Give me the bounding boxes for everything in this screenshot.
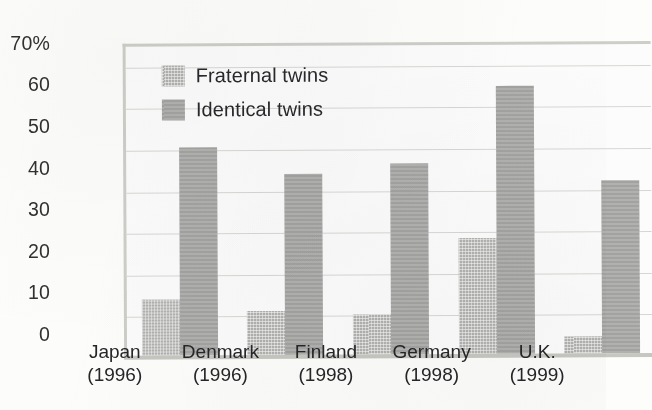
x-axis-label-country: Denmark — [182, 341, 259, 362]
x-axis: Japan(1996)Denmark(1996)Finland(1998)Ger… — [62, 340, 590, 406]
y-tick-label-20: 20 — [28, 239, 50, 262]
x-axis-label-country: Japan — [89, 341, 141, 362]
y-tick-label-40: 40 — [28, 156, 50, 179]
bar-uk-identical — [601, 181, 640, 354]
y-tick-label-0: 0 — [39, 323, 50, 346]
bar-denmark-identical — [285, 174, 324, 355]
bar-finland-identical — [390, 163, 429, 355]
x-axis-label-country: Germany — [393, 341, 471, 362]
y-tick-label-30: 30 — [28, 198, 50, 221]
legend-label-identical: Identical twins — [196, 97, 323, 121]
bar-japan-identical — [179, 147, 218, 355]
y-tick-label-60: 60 — [28, 73, 50, 96]
x-axis-label-country: U.K. — [519, 341, 556, 362]
x-axis-label-year: (1998) — [379, 363, 485, 386]
bar-germany-fraternal — [458, 237, 497, 354]
bar-germany-identical — [495, 85, 534, 353]
x-axis-label-germany: Germany(1998) — [379, 340, 485, 386]
x-axis-label-year: (1996) — [168, 363, 274, 386]
y-tick-label-50: 50 — [28, 115, 50, 138]
x-axis-label-denmark: Denmark(1996) — [168, 340, 274, 386]
legend-item-fraternal: Fraternal twins — [162, 58, 329, 93]
x-axis-label-year: (1999) — [484, 363, 590, 386]
plot-area: Fraternal twins Identical twins — [123, 41, 652, 356]
legend-swatch-identical-icon — [162, 99, 185, 120]
x-axis-label-country: Finland — [295, 341, 357, 362]
plot-frame-skew: Fraternal twins Identical twins — [60, 19, 590, 334]
legend-label-fraternal: Fraternal twins — [196, 63, 329, 87]
x-axis-label-japan: Japan(1996) — [62, 340, 168, 386]
x-axis-label-uk: U.K.(1999) — [484, 340, 590, 386]
y-tick-label-10: 10 — [28, 281, 50, 304]
x-axis-label-finland: Finland(1998) — [273, 340, 379, 386]
x-axis-label-year: (1998) — [273, 363, 379, 386]
chart-legend: Fraternal twins Identical twins — [162, 58, 329, 127]
legend-swatch-fraternal-icon — [162, 65, 185, 86]
legend-item-identical: Identical twins — [162, 92, 329, 127]
x-axis-label-year: (1996) — [62, 363, 168, 386]
y-axis: 010203040506070% — [0, 0, 58, 410]
y-tick-label-70: 70% — [10, 31, 50, 54]
